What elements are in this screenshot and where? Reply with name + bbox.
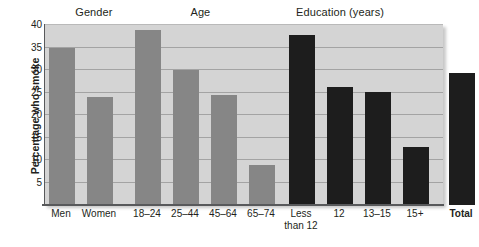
y-tick-label: 40 [16, 19, 42, 30]
bar [249, 165, 275, 206]
y-tick-label: 35 [16, 41, 42, 52]
bar [289, 35, 315, 205]
y-tick-label: 10 [16, 154, 42, 165]
group-header-education: Education (years) [296, 6, 384, 18]
bar [365, 92, 391, 205]
gridline [45, 24, 443, 25]
x-tick-label: Total [433, 208, 479, 220]
gridline [45, 69, 443, 70]
bar [403, 147, 429, 206]
plot-area [44, 24, 443, 205]
y-tick-label: 25 [16, 86, 42, 97]
y-tick-label: 20 [16, 109, 42, 120]
x-axis-line [42, 204, 444, 206]
bar [87, 97, 113, 205]
bar [135, 30, 161, 206]
y-tick-label: 15 [16, 131, 42, 142]
group-header-age: Age [190, 6, 210, 18]
bar [449, 73, 475, 205]
bar [327, 87, 353, 205]
group-header-gender: Gender [75, 6, 112, 18]
y-tick-label: 30 [16, 64, 42, 75]
y-tick-label: 5 [16, 176, 42, 187]
bar [211, 95, 237, 205]
bar [173, 70, 199, 205]
bar [49, 48, 75, 206]
gridline [45, 47, 443, 48]
